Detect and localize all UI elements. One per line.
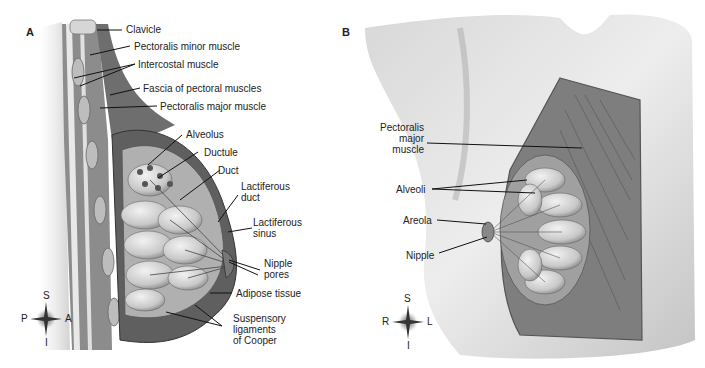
label-line: muscle (392, 144, 424, 155)
compass-bottom: I (45, 337, 48, 348)
panel-label-b: B (342, 26, 350, 38)
compass-b: S R L I (382, 293, 432, 353)
label-line: Lactiferous (253, 217, 302, 228)
label-pectoralis-major: Pectoralis major muscle (160, 101, 266, 112)
label-line: Lactiferous (241, 181, 290, 192)
label-duct: Duct (218, 165, 239, 176)
label-nipple: Nipple (406, 250, 434, 261)
label-line: of Cooper (233, 335, 277, 346)
label-nipple-pores: Nipple pores (264, 258, 292, 280)
label-line: pores (264, 269, 289, 280)
label-line: Suspensory (233, 313, 286, 324)
compass-top: S (404, 293, 411, 304)
label-line: duct (241, 192, 260, 203)
label-line: ligaments (233, 324, 276, 335)
label-lactiferous-duct: Lactiferous duct (241, 181, 290, 203)
label-suspensory-ligaments: Suspensory ligaments of Cooper (233, 313, 286, 346)
label-pectoralis-minor: Pectoralis minor muscle (134, 41, 240, 52)
label-intercostal-muscle: Intercostal muscle (138, 59, 219, 70)
label-line: Pectoralis (380, 122, 424, 133)
compass-right: L (427, 316, 433, 327)
compass-a: S P A I (21, 290, 71, 350)
label-adipose-tissue: Adipose tissue (236, 288, 301, 299)
compass-left: R (382, 316, 389, 327)
compass-bottom: I (407, 340, 410, 351)
label-areola: Areola (403, 215, 432, 226)
compass-left: P (21, 313, 28, 324)
panel-label-a: A (26, 26, 34, 38)
label-pectoralis-major-b: Pectoralis major muscle (372, 122, 424, 155)
label-line: major (399, 133, 424, 144)
label-fascia: Fascia of pectoral muscles (143, 83, 261, 94)
label-clavicle: Clavicle (126, 24, 161, 35)
anatomy-illustration (0, 0, 705, 368)
label-alveoli: Alveoli (396, 184, 425, 195)
compass-top: S (43, 290, 50, 301)
compass-right: A (65, 313, 72, 324)
label-alveolus: Alveolus (186, 129, 224, 140)
label-line: sinus (253, 228, 276, 239)
label-line: Nipple (264, 258, 292, 269)
label-lactiferous-sinus: Lactiferous sinus (253, 217, 302, 239)
label-ductule: Ductule (204, 147, 238, 158)
